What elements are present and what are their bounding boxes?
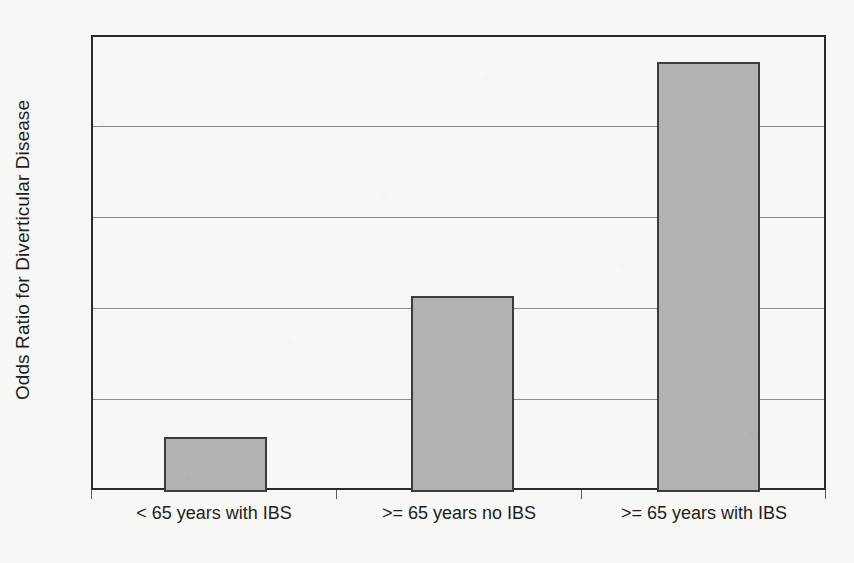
x-axis-ticks: < 65 years with IBS >= 65 years no IBS >… [0, 0, 854, 563]
x-tick-mark-3 [825, 490, 826, 499]
x-tick-mark-0 [91, 490, 92, 499]
x-tick-label-gte65-with-ibs: >= 65 years with IBS [621, 503, 787, 524]
x-tick-mark-2 [581, 490, 582, 499]
x-tick-label-gte65-no-ibs: >= 65 years no IBS [382, 503, 536, 524]
bar-chart-figure: Odds Ratio for Diverticular Disease 10 8… [0, 0, 854, 563]
x-tick-mark-1 [336, 490, 337, 499]
x-tick-label-lt65-with-ibs: < 65 years with IBS [136, 503, 292, 524]
